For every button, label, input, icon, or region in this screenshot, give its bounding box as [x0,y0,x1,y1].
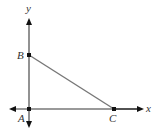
y-axis-down-arrow-icon [26,121,32,128]
x-axis-left-arrow-icon [9,106,16,112]
point-b-label: B [17,49,24,61]
x-axis-label: x [145,102,151,114]
segment-bc [29,55,114,109]
point-b [27,53,31,57]
point-c-label: C [109,112,117,124]
point-a-label: A [17,112,25,124]
y-axis-up-arrow-icon [26,18,32,25]
y-axis-label: y [25,2,31,14]
coordinate-diagram: y x A B C [0,0,156,136]
point-a [27,107,31,111]
x-axis-right-arrow-icon [137,106,144,112]
point-c [112,107,116,111]
